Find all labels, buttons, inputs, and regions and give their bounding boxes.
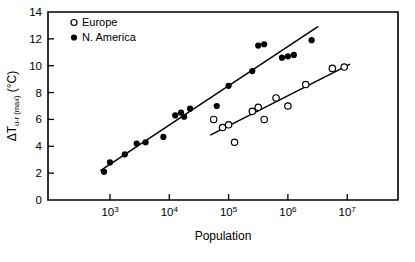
data-point-open <box>303 81 309 87</box>
data-point-filled <box>122 151 128 157</box>
data-point-filled <box>285 53 291 59</box>
data-point-filled <box>261 41 267 47</box>
data-point-open <box>210 116 216 122</box>
y-axis-title-text: ΔTu-r (max) (°C) <box>5 71 21 142</box>
data-point-filled <box>160 134 166 140</box>
x-tick-label: 105 <box>220 205 238 218</box>
data-point-filled <box>172 112 178 118</box>
legend-marker-open-circle-icon <box>71 20 77 26</box>
scatter-plot: 103104105106107 02468101214 Population Δ… <box>0 0 415 262</box>
y-tick-label: 0 <box>36 194 42 206</box>
data-point-filled <box>134 141 140 147</box>
y-tick-label: 10 <box>29 60 42 72</box>
data-point-open <box>341 64 347 70</box>
data-point-open <box>329 65 335 71</box>
data-point-filled <box>291 52 297 58</box>
x-tick-label: 103 <box>101 205 119 218</box>
data-point-open <box>255 104 261 110</box>
data-point-filled <box>309 37 315 43</box>
data-points <box>101 37 347 175</box>
x-axis-title: Population <box>195 229 252 243</box>
regression-line-n-america <box>101 27 318 171</box>
data-point-open <box>261 116 267 122</box>
legend-item-n-america: N. America <box>71 31 137 43</box>
chart-legend: EuropeN. America <box>71 16 137 43</box>
x-tick-label: 107 <box>339 205 357 218</box>
legend-item-europe: Europe <box>71 16 117 28</box>
chart-figure: 103104105106107 02468101214 Population Δ… <box>0 0 415 262</box>
y-tick-label: 14 <box>29 6 42 18</box>
data-point-filled <box>226 83 232 89</box>
y-tick-label: 12 <box>29 33 42 45</box>
data-point-filled <box>249 68 255 74</box>
legend-label: N. America <box>82 31 137 43</box>
y-tick-label: 4 <box>36 140 43 152</box>
data-point-filled <box>255 42 261 48</box>
data-point-open <box>285 103 291 109</box>
data-point-filled <box>187 106 193 112</box>
data-point-open <box>273 95 279 101</box>
data-point-filled <box>101 169 107 175</box>
x-axis-title-text: Population <box>195 229 252 243</box>
y-tick-label: 2 <box>36 167 42 179</box>
data-point-filled <box>142 139 148 145</box>
data-point-filled <box>107 159 113 165</box>
data-point-open <box>219 124 225 130</box>
y-axis-ticks: 02468101214 <box>29 6 54 206</box>
data-point-open <box>249 108 255 114</box>
legend-marker-filled-circle-icon <box>71 34 77 40</box>
regression-lines <box>101 27 350 171</box>
y-axis-title: ΔTu-r (max) (°C) <box>5 71 21 142</box>
data-point-open <box>231 139 237 145</box>
y-tick-label: 8 <box>36 87 42 99</box>
data-point-filled <box>181 114 187 120</box>
x-tick-label: 106 <box>279 205 297 218</box>
y-tick-label: 6 <box>36 113 42 125</box>
series-n-america <box>101 37 315 175</box>
x-tick-label: 104 <box>161 205 179 218</box>
data-point-filled <box>279 55 285 61</box>
data-point-open <box>225 122 231 128</box>
legend-label: Europe <box>82 16 117 28</box>
data-point-filled <box>214 103 220 109</box>
x-axis-ticks: 103104105106107 <box>101 194 356 218</box>
